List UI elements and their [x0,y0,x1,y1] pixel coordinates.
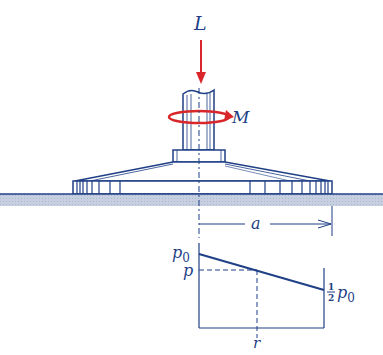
base-flange [73,162,332,194]
svg-text:1: 1 [328,282,334,292]
moment-label: M [231,107,250,127]
svg-text:2: 2 [328,293,334,303]
half-p0-label: 1 2 p0 [327,282,355,305]
radius-label: a [251,214,261,233]
load-label: L [193,12,207,34]
pressure-plot [199,243,324,338]
r-label: r [253,334,261,352]
diagram: L M [0,0,383,355]
svg-text:p0: p0 [337,283,355,305]
p-label: p [183,261,193,280]
radius-dimension [199,206,332,236]
ground [0,194,383,206]
load-arrow [196,40,206,84]
